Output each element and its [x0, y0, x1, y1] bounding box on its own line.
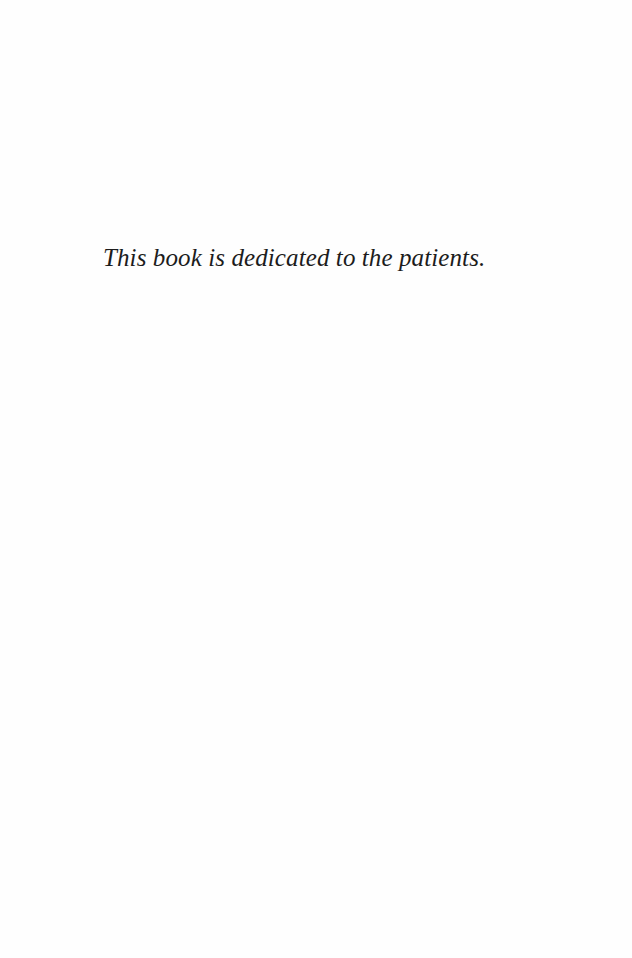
dedication-text: This book is dedicated to the patients. — [103, 243, 485, 273]
dedication-page: This book is dedicated to the patients. — [0, 0, 632, 958]
